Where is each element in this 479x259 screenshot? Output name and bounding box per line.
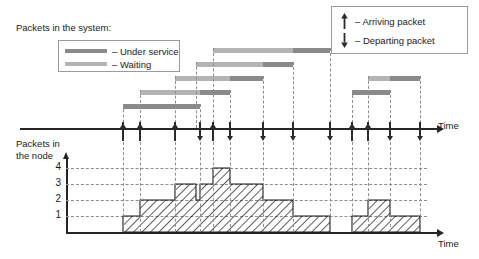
event-guide-line — [140, 142, 141, 232]
y-tick-label: 2 — [49, 193, 61, 204]
packets-y-axis — [66, 158, 68, 232]
event-guide-line — [390, 142, 391, 232]
event-guide-line — [330, 142, 331, 232]
y-tick-label: 3 — [49, 177, 61, 188]
y-gridline — [66, 200, 427, 201]
event-guide-line — [293, 142, 294, 232]
event-guide-line — [263, 142, 264, 232]
y-tick-label: 1 — [49, 209, 61, 220]
event-guide-line — [123, 142, 124, 232]
event-guide-line — [200, 142, 201, 232]
y-axis-label-line2: the node — [16, 150, 53, 161]
packets-in-node-panel: 1234 — [0, 0, 479, 259]
event-guide-line — [368, 142, 369, 232]
event-guide-line — [420, 142, 421, 232]
y-gridline — [66, 216, 427, 217]
event-guide-line — [213, 142, 214, 232]
packets-in-node-step-chart — [0, 0, 479, 259]
packets-x-axis — [66, 232, 437, 234]
y-axis-label-line1: Packets in — [16, 138, 60, 149]
lower-axis-time-label: Time — [438, 238, 459, 249]
y-tick-label: 4 — [49, 161, 61, 172]
event-guide-line — [230, 142, 231, 232]
y-gridline — [66, 184, 427, 185]
y-axis-arrowhead — [63, 152, 69, 159]
x-axis-arrowhead — [437, 229, 444, 237]
event-guide-line — [352, 142, 353, 232]
event-guide-line — [175, 142, 176, 232]
y-gridline — [66, 168, 427, 169]
